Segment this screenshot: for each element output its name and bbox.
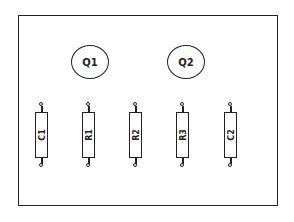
bottom-pad	[133, 163, 137, 167]
component-body: R3	[176, 112, 189, 158]
bottom-pad	[39, 163, 43, 167]
bottom-pad	[86, 163, 90, 167]
component-r1: R1	[82, 102, 96, 166]
component-body: R1	[82, 112, 95, 158]
component-c2: C2	[224, 102, 238, 166]
bottom-pad	[180, 163, 184, 167]
component-label: C2	[226, 129, 235, 140]
component-label: R3	[178, 129, 187, 141]
transistor-label: Q2	[178, 57, 193, 68]
component-r3: R3	[176, 102, 190, 166]
component-label: R1	[84, 129, 93, 141]
component-body: R2	[129, 112, 142, 158]
bottom-pad	[228, 163, 232, 167]
component-body: C2	[224, 112, 237, 158]
component-label: R2	[131, 129, 140, 141]
component-label: C1	[37, 129, 46, 140]
component-r2: R2	[129, 102, 143, 166]
transistor-label: Q1	[82, 57, 97, 68]
component-body: C1	[35, 112, 48, 158]
circuit-board	[18, 15, 278, 206]
transistor-q2: Q2	[167, 45, 205, 79]
component-c1: C1	[35, 102, 49, 166]
transistor-q1: Q1	[71, 45, 109, 79]
